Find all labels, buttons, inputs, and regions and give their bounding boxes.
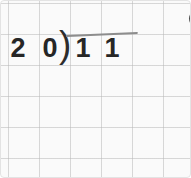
graph-paper-worksheet: 2 0 ) 1 1 (0, 0, 191, 178)
dividend-digit-tens: 1 (75, 37, 91, 59)
clipped-circle-marker (189, 10, 191, 27)
division-bracket: ) (59, 28, 71, 62)
divisor-digit-tens: 2 (10, 37, 26, 59)
divisor-digit-ones: 0 (42, 37, 58, 59)
dividend-digit-ones: 1 (104, 37, 120, 59)
